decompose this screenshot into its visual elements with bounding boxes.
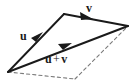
- vector-label-v: v: [86, 2, 92, 14]
- vector-label-sum-operator: +: [52, 52, 61, 66]
- vector-label-sum-right: v: [61, 52, 67, 66]
- vector-v-shaft: [64, 14, 128, 26]
- vector-addition-figure: u v u+v: [0, 0, 138, 84]
- vector-label-u: u: [20, 30, 27, 42]
- vector-label-u-plus-v: u+v: [45, 53, 68, 65]
- dashed-edge-origin-to-vertex: [8, 72, 75, 79]
- vector-v: [64, 12, 128, 26]
- dashed-edge-vertex-to-tip: [75, 26, 128, 79]
